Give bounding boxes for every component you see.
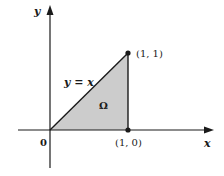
region-label: Ω: [99, 100, 108, 111]
y-axis-label: y: [33, 5, 42, 18]
origin-label: 0: [40, 137, 47, 148]
point-1-0: [125, 127, 130, 132]
x-axis-arrow-icon: [204, 127, 214, 134]
x-axis-label: x: [203, 137, 211, 150]
line-label: y = x: [63, 76, 94, 89]
y-axis-arrow-icon: [47, 5, 54, 15]
point-1-1: [125, 50, 130, 55]
point-1-0-label: (1, 0): [115, 137, 142, 148]
diagram-canvas: y x 0 (1, 0) (1, 1) y = x Ω: [0, 0, 224, 176]
point-1-1-label: (1, 1): [136, 48, 163, 59]
